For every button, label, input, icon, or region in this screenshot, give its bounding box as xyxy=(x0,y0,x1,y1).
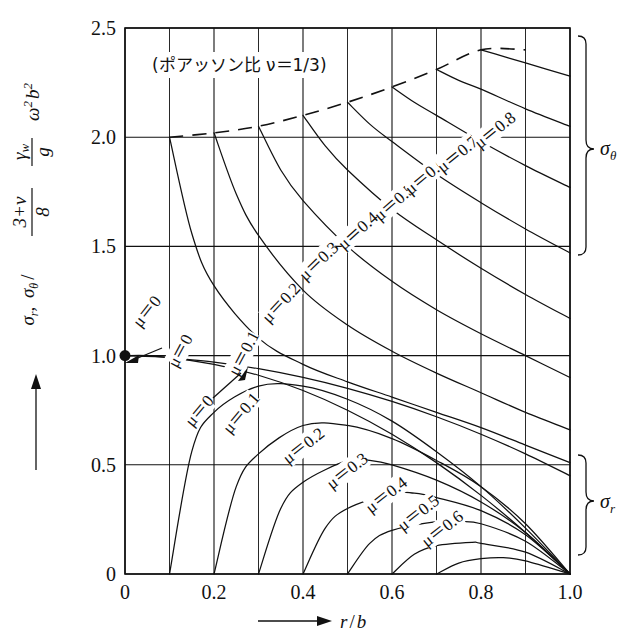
svg-text:μ＝0.3: μ＝0.3 xyxy=(295,238,342,285)
svg-text:μ＝0.1: μ＝0.1 xyxy=(224,328,263,379)
svg-text:μ＝0: μ＝0 xyxy=(181,392,218,431)
svg-text:g: g xyxy=(32,147,53,157)
y-tick-label: 1.5 xyxy=(91,235,116,257)
mu-label-sigma-theta: μ＝0.3 xyxy=(294,237,342,284)
mu-label-sigma-theta: μ＝0.2 xyxy=(257,278,304,326)
svg-text:μ＝0.4: μ＝0.4 xyxy=(362,473,411,517)
mu-label-sigma-theta: μ＝0.1 xyxy=(223,327,263,378)
svg-text:3+ν: 3+ν xyxy=(9,196,30,228)
svg-text:r/b: r/b xyxy=(340,611,366,632)
mu-label-sigma-r: μ＝0.3 xyxy=(322,448,372,493)
y-tick-label: 1.0 xyxy=(91,345,116,367)
x-tick-label: 0.4 xyxy=(291,581,316,603)
svg-text:8: 8 xyxy=(32,207,53,217)
x-tick-label: 0.2 xyxy=(202,581,227,603)
svg-text:μ＝0: μ＝0 xyxy=(129,292,165,331)
svg-text:μ＝0.8: μ＝0.8 xyxy=(470,108,519,153)
mu-label-origin-callout: μ＝0 xyxy=(128,291,165,331)
chart-svg: 00.20.40.60.81.0 00.51.01.52.02.5 μ＝0μ＝0… xyxy=(0,0,634,643)
sigma-r-brace-label: σr xyxy=(600,490,616,516)
x-tick-label: 0.8 xyxy=(469,581,494,603)
x-tick-label: 1.0 xyxy=(558,581,583,603)
sigma-theta-brace xyxy=(578,36,594,255)
curve-sigma_r-mu-0.7 xyxy=(437,558,571,574)
rotating-disk-stress-chart: 00.20.40.60.81.0 00.51.01.52.02.5 μ＝0μ＝0… xyxy=(0,0,634,643)
origin-dot xyxy=(120,350,131,361)
sigma-theta-brace-label: σθ xyxy=(600,137,617,163)
curve-sigma_r-mu-0.5 xyxy=(348,521,571,574)
svg-text:σr, σθ/: σr, σθ/ xyxy=(17,274,41,326)
x-tick-label: 0 xyxy=(120,581,130,603)
mu-label-sigma-theta: μ＝0.8 xyxy=(470,107,519,152)
poisson-ratio-annotation: (ポアッソン比 ν＝1/3) xyxy=(152,55,327,75)
mu-label-sigma-theta: μ＝0 xyxy=(163,331,197,371)
svg-text:μ＝0.1: μ＝0.1 xyxy=(219,389,264,438)
x-tick-label: 0.6 xyxy=(380,581,405,603)
y-axis-arrow xyxy=(31,374,41,470)
y-axis-title-omega-term: ω2b2 xyxy=(20,83,43,121)
svg-text:γw: γw xyxy=(9,144,32,161)
svg-text:μ＝0.2: μ＝0.2 xyxy=(279,424,328,468)
svg-text:μ＝0: μ＝0 xyxy=(164,331,197,370)
y-tick-label: 0 xyxy=(106,563,116,585)
mu-label-sigma-r: μ＝0.1 xyxy=(218,388,264,437)
y-tick-label: 0.5 xyxy=(91,454,116,476)
mu-label-sigma-r: μ＝0.4 xyxy=(361,472,411,517)
data-markers xyxy=(120,350,131,361)
svg-text:ω2b2: ω2b2 xyxy=(20,83,43,121)
y-axis-title: σr, σθ/ xyxy=(17,274,41,326)
y-axis-title-fraction: 3+ν 8 xyxy=(9,188,53,236)
y-tick-label: 2.0 xyxy=(91,126,116,148)
x-tick-labels: 00.20.40.60.81.0 xyxy=(120,581,583,603)
y-tick-labels: 00.51.01.52.02.5 xyxy=(91,17,116,585)
svg-text:μ＝0.2: μ＝0.2 xyxy=(258,279,304,327)
sigma-r-brace xyxy=(578,455,594,555)
y-tick-label: 2.5 xyxy=(91,17,116,39)
x-axis-title: r/b xyxy=(258,611,366,632)
curve-sigma_theta-mu-0.5 xyxy=(348,102,571,253)
grid-lines xyxy=(125,28,570,574)
mu-curve-labels: μ＝0μ＝0.1μ＝0.2μ＝0.3μ＝0.4μ＝0.5μ＝0.6μ＝0.7μ＝… xyxy=(128,107,519,551)
y-axis-title-gamma-fraction: γw g xyxy=(9,138,53,166)
mu-label-sigma-r: μ＝0 xyxy=(180,391,218,430)
